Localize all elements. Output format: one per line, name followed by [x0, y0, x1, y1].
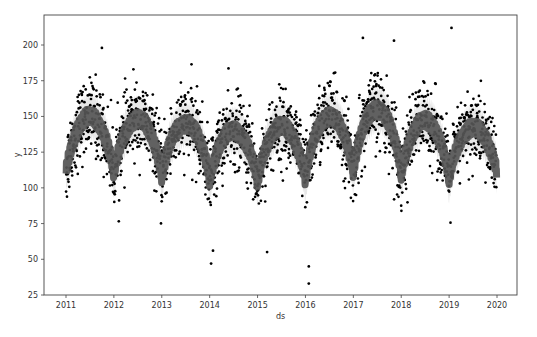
data-point: [151, 93, 154, 96]
data-point: [139, 142, 142, 145]
data-point: [236, 87, 239, 90]
data-point: [154, 112, 157, 115]
data-point: [479, 100, 482, 103]
data-point: [304, 138, 307, 141]
data-point: [163, 118, 166, 121]
data-point: [253, 142, 256, 145]
data-point: [346, 168, 349, 171]
data-point: [457, 170, 460, 173]
data-point: [274, 109, 277, 112]
data-point: [92, 88, 95, 91]
data-point: [218, 111, 221, 114]
data-point: [227, 89, 230, 92]
x-axis-label: ds: [276, 312, 285, 321]
data-point: [408, 96, 411, 99]
data-point: [350, 196, 353, 199]
data-point: [224, 150, 227, 153]
data-point: [81, 166, 84, 169]
data-point: [221, 184, 224, 187]
y-tick-label: 125: [23, 148, 38, 157]
data-point: [279, 158, 282, 161]
data-point: [401, 191, 404, 194]
data-point: [81, 94, 84, 97]
data-point: [67, 178, 70, 181]
data-point: [165, 191, 168, 194]
data-point: [406, 201, 409, 204]
data-point: [209, 201, 212, 204]
data-point: [348, 181, 351, 184]
data-point: [456, 125, 459, 128]
data-point: [265, 119, 268, 122]
data-point: [122, 95, 125, 98]
data-point: [393, 101, 396, 104]
data-point: [245, 181, 248, 184]
data-point: [132, 148, 135, 151]
data-point: [247, 171, 250, 174]
data-point: [324, 93, 327, 96]
data-point: [377, 133, 380, 136]
data-point: [263, 175, 266, 178]
data-point: [393, 198, 396, 201]
data-point: [78, 93, 81, 96]
data-point: [109, 184, 112, 187]
data-point: [301, 195, 304, 198]
data-point: [135, 100, 138, 103]
data-point: [319, 161, 322, 164]
data-point: [251, 122, 254, 125]
data-point: [248, 104, 251, 107]
data-point: [248, 125, 251, 128]
data-point: [466, 161, 469, 164]
data-point: [78, 101, 81, 104]
data-point: [471, 108, 474, 111]
data-point: [396, 193, 399, 196]
data-point: [426, 90, 429, 93]
data-point: [345, 114, 348, 117]
data-point: [422, 139, 425, 142]
data-point: [478, 110, 481, 113]
data-point: [481, 116, 484, 119]
data-point: [151, 113, 154, 116]
data-point: [79, 155, 82, 158]
data-point: [95, 158, 98, 161]
data-point: [181, 137, 184, 140]
data-point: [187, 91, 190, 94]
data-point: [66, 195, 69, 198]
data-point: [355, 194, 358, 197]
data-point: [432, 150, 435, 153]
data-point: [153, 114, 156, 117]
data-point: [111, 126, 114, 129]
data-point: [341, 97, 344, 100]
data-point: [380, 78, 383, 81]
data-point: [358, 97, 361, 100]
data-point: [490, 121, 493, 124]
data-point: [101, 113, 104, 116]
data-point: [144, 143, 147, 146]
outlier-point: [266, 251, 269, 254]
data-point: [394, 118, 397, 121]
data-point: [446, 140, 449, 143]
data-point: [445, 112, 448, 115]
data-point: [322, 137, 325, 140]
data-point: [196, 109, 199, 112]
data-point: [418, 149, 421, 152]
data-point: [90, 94, 93, 97]
data-point: [273, 146, 276, 149]
data-point: [315, 153, 318, 156]
data-point: [169, 107, 172, 110]
data-point: [470, 143, 473, 146]
data-point: [111, 184, 114, 187]
data-point: [157, 122, 160, 125]
data-point: [79, 106, 82, 109]
data-point: [190, 87, 193, 90]
data-point: [226, 154, 229, 157]
data-point: [471, 148, 474, 151]
data-point: [406, 114, 409, 117]
data-point: [293, 118, 296, 121]
data-point: [180, 81, 183, 84]
data-point: [261, 185, 264, 188]
data-point: [434, 83, 437, 86]
data-point: [285, 167, 288, 170]
data-point: [479, 157, 482, 160]
data-point: [374, 128, 377, 131]
data-point: [85, 147, 88, 150]
